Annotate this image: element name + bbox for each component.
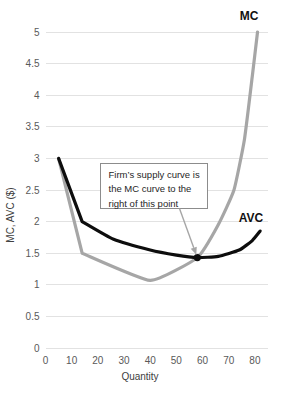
x-axis-title: Quantity <box>121 371 158 382</box>
series-labels: MCAVC <box>239 9 264 225</box>
series-label-avc: AVC <box>239 211 264 225</box>
chart-container: 00.511.522.533.544.55 01020304050607080 … <box>0 0 281 394</box>
x-tick-label: 0 <box>43 355 49 366</box>
y-tick-label: 3.5 <box>26 121 40 132</box>
annotation-line: the MC curve to the <box>109 183 192 194</box>
y-tick-label: 0.5 <box>26 311 40 322</box>
y-tick-label: 0 <box>34 343 40 354</box>
annotation-line: right of this point <box>109 198 179 209</box>
data-curves <box>59 32 261 280</box>
curve-mc <box>59 32 258 280</box>
x-tick-label: 80 <box>249 355 261 366</box>
y-axis-tick-labels: 00.511.522.533.544.55 <box>26 27 40 354</box>
mc-avc-chart: 00.511.522.533.544.55 01020304050607080 … <box>0 0 281 394</box>
data-markers <box>194 254 201 261</box>
y-axis-title: MC, AVC ($) <box>5 187 16 242</box>
annotation-arrow-line <box>180 209 194 248</box>
intersection-point <box>194 254 201 261</box>
y-tick-label: 3 <box>34 153 40 164</box>
x-axis-tick-labels: 01020304050607080 <box>43 355 261 366</box>
x-tick-label: 10 <box>66 355 78 366</box>
x-tick-label: 30 <box>118 355 130 366</box>
y-tick-label: 4.5 <box>26 58 40 69</box>
y-tick-label: 2.5 <box>26 185 40 196</box>
series-label-mc: MC <box>240 9 259 23</box>
y-tick-label: 2 <box>34 216 40 227</box>
y-tick-label: 4 <box>34 90 40 101</box>
x-tick-label: 60 <box>197 355 209 366</box>
x-tick-label: 20 <box>92 355 104 366</box>
x-tick-label: 40 <box>145 355 157 366</box>
annotation-line: Firm’s supply curve is <box>109 169 200 180</box>
y-tick-label: 1.5 <box>26 248 40 259</box>
y-tick-label: 1 <box>34 279 40 290</box>
x-tick-label: 50 <box>171 355 183 366</box>
x-tick-label: 70 <box>223 355 235 366</box>
y-tick-label: 5 <box>34 27 40 38</box>
